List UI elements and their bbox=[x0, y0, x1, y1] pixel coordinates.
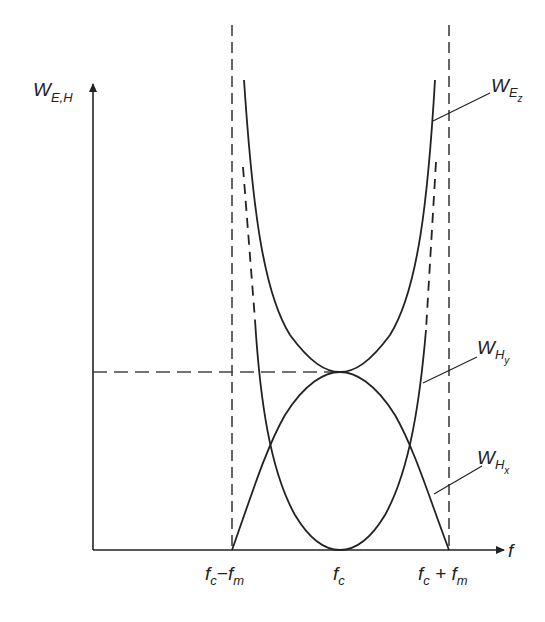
diagram-canvas: WE,H f fc−fm fc fc + fm WEz WHy WHx bbox=[0, 0, 545, 622]
y-axis-label: WE,H bbox=[33, 79, 73, 105]
tick-fc-plus-fm: fc + fm bbox=[418, 563, 468, 588]
leader-w-hy bbox=[423, 357, 477, 383]
x-axis-label: f bbox=[508, 540, 515, 561]
leader-w-hx bbox=[434, 466, 482, 494]
leader-w-ez bbox=[433, 93, 490, 121]
label-w-hx: WHx bbox=[477, 447, 510, 476]
curve-w-hy bbox=[255, 320, 426, 550]
curve-w-ez bbox=[244, 80, 435, 372]
curve-w-hx bbox=[232, 372, 449, 550]
spectral-density-diagram: WE,H f fc−fm fc fc + fm WEz WHy WHx bbox=[0, 0, 545, 622]
tick-fc-minus-fm: fc−fm bbox=[205, 563, 244, 588]
tick-fc: fc bbox=[333, 563, 345, 588]
label-w-hy: WHy bbox=[477, 337, 510, 366]
label-w-ez: WEz bbox=[491, 75, 523, 104]
